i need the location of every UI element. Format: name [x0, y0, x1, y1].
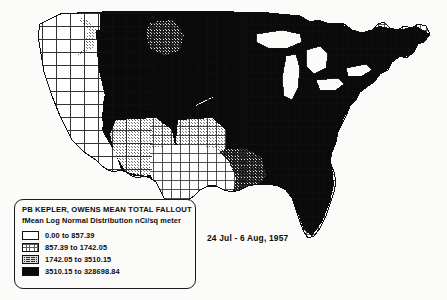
- date-range-caption: 24 Jul - 6 Aug, 1957: [207, 233, 288, 243]
- legend-swatch-bin-2: [22, 255, 39, 264]
- legend-items: 0.00 to 857.39 857.39 to 1742.05 1742.05…: [22, 230, 195, 277]
- legend-label-bin-3: 3510.15 to 328698.84: [45, 267, 120, 276]
- legend-swatch-bin-0: [22, 231, 39, 240]
- lake-superior: [256, 30, 302, 48]
- legend-item: 857.39 to 1742.05: [22, 242, 195, 253]
- legend-item: 0.00 to 857.39: [22, 230, 195, 241]
- legend-item: 3510.15 to 328698.84: [22, 266, 195, 277]
- legend-subtitle: fMean Log Normal Distribution nCi/sq met…: [22, 216, 195, 226]
- legend-label-bin-2: 1742.05 to 3510.15: [45, 255, 111, 264]
- legend-item: 1742.05 to 3510.15: [22, 254, 195, 265]
- legend-swatch-bin-1: [22, 243, 39, 252]
- legend-swatch-bin-3: [22, 267, 39, 276]
- legend-label-bin-1: 857.39 to 1742.05: [45, 243, 107, 252]
- fallout-map-figure: PB KEPLER, OWENS MEAN TOTAL FALLOUT fMea…: [0, 0, 447, 300]
- map-legend: PB KEPLER, OWENS MEAN TOTAL FALLOUT fMea…: [14, 199, 196, 289]
- legend-title: PB KEPLER, OWENS MEAN TOTAL FALLOUT: [22, 205, 195, 215]
- legend-label-bin-0: 0.00 to 857.39: [45, 231, 94, 240]
